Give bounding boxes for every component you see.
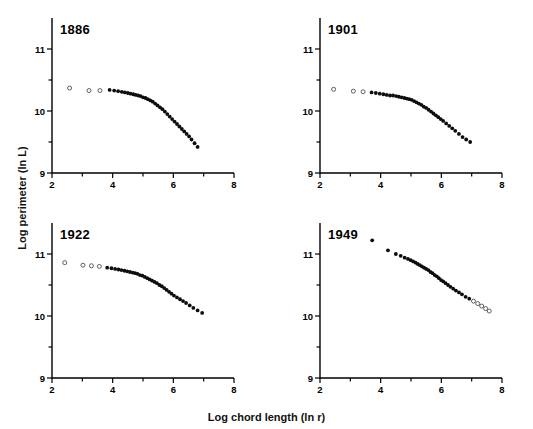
data-point [188, 304, 192, 308]
series-open [63, 261, 102, 269]
data-point [193, 141, 197, 145]
panel-1901: 2468910111901 [296, 10, 508, 195]
series-open [332, 87, 365, 93]
data-point [68, 86, 72, 90]
x-tick-label: 8 [499, 179, 504, 190]
data-point [87, 89, 91, 93]
data-point [480, 304, 484, 308]
x-tick-label: 2 [49, 179, 54, 190]
data-point [471, 299, 475, 303]
panel-1922: 2468910111922 [28, 215, 240, 400]
data-point [351, 89, 355, 93]
data-point [370, 91, 374, 95]
data-point [381, 92, 385, 96]
y-tick-label: 9 [40, 168, 45, 179]
data-point [453, 129, 457, 133]
data-point [110, 266, 114, 270]
plot-1949: 2468910111949 [296, 215, 508, 400]
plot-1922: 2468910111922 [28, 215, 240, 400]
x-tick-label: 4 [378, 179, 384, 190]
data-point [116, 89, 120, 93]
x-tick-label: 2 [317, 179, 322, 190]
data-point [460, 292, 464, 296]
data-point [464, 138, 468, 142]
x-tick-label: 8 [231, 179, 236, 190]
data-point [378, 92, 382, 96]
data-point [361, 90, 365, 94]
data-point [484, 307, 488, 311]
data-point [97, 264, 101, 268]
y-tick-label: 9 [40, 373, 45, 384]
data-point [399, 254, 403, 258]
data-point [332, 87, 336, 91]
y-tick-label: 10 [302, 311, 313, 322]
panel-1949: 2468910111949 [296, 215, 508, 400]
panel-1886: 2468910111886 [28, 10, 240, 195]
richardson-plot-figure: 2468910111886 2468910111901 246891011192… [0, 0, 533, 429]
x-tick-label: 4 [110, 384, 116, 395]
y-tick-label: 10 [302, 106, 313, 117]
x-tick-label: 4 [110, 179, 116, 190]
plot-1901: 2468910111901 [296, 10, 508, 195]
y-tick-label: 11 [303, 44, 314, 55]
x-tick-label: 6 [439, 384, 444, 395]
data-point [447, 124, 451, 128]
y-tick-label: 11 [303, 249, 314, 260]
panel-title: 1886 [60, 22, 90, 37]
series-filled [370, 238, 471, 300]
panel-title: 1901 [328, 22, 358, 37]
series-filled [370, 91, 472, 144]
panel-title: 1949 [328, 227, 358, 242]
data-point [191, 306, 195, 310]
data-point [444, 122, 448, 126]
data-point [464, 295, 468, 299]
data-point [487, 309, 491, 313]
data-point [374, 91, 378, 95]
y-axis-label: Log perimeter (ln L) [16, 108, 28, 288]
x-tick-label: 6 [171, 384, 176, 395]
series-filled [105, 266, 204, 315]
data-point [184, 301, 188, 305]
data-point [81, 263, 85, 267]
x-tick-label: 6 [171, 179, 176, 190]
data-point [386, 248, 390, 252]
panel-title: 1922 [60, 227, 90, 242]
x-tick-label: 8 [499, 384, 504, 395]
data-point [196, 145, 200, 149]
data-point [98, 89, 102, 93]
data-point [190, 138, 194, 142]
y-tick-label: 10 [34, 311, 45, 322]
data-point [461, 135, 465, 139]
x-tick-label: 4 [378, 384, 384, 395]
data-point [112, 89, 116, 93]
data-point [441, 119, 445, 123]
data-point [63, 261, 67, 265]
y-tick-label: 11 [35, 249, 46, 260]
data-point [187, 135, 191, 139]
x-tick-label: 2 [317, 384, 322, 395]
data-point [394, 252, 398, 256]
data-point [403, 256, 407, 260]
x-tick-label: 6 [439, 179, 444, 190]
x-tick-label: 2 [49, 384, 54, 395]
y-tick-label: 10 [34, 106, 45, 117]
x-tick-label: 8 [231, 384, 236, 395]
data-point [370, 238, 374, 242]
y-tick-label: 11 [35, 44, 46, 55]
data-point [113, 267, 117, 271]
series-open [471, 299, 491, 313]
data-point [385, 93, 389, 97]
data-point [108, 88, 112, 92]
y-tick-label: 9 [308, 168, 313, 179]
series-filled [108, 88, 200, 149]
data-point [89, 264, 93, 268]
x-axis-label: Log chord length (ln r) [0, 411, 533, 423]
data-point [467, 297, 471, 301]
data-point [196, 309, 200, 313]
data-point [457, 132, 461, 136]
data-point [200, 311, 204, 315]
y-tick-label: 9 [308, 373, 313, 384]
data-point [476, 302, 480, 306]
data-point [468, 140, 472, 144]
series-open [68, 86, 102, 92]
